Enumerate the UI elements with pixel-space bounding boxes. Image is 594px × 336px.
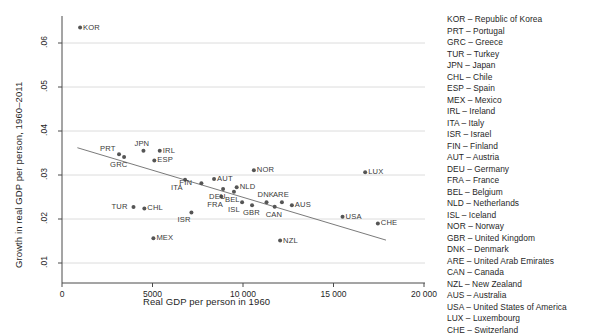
x-tick-label: 5000 (123, 289, 183, 299)
point-label-lux: LUX (368, 167, 383, 176)
data-point-grc (122, 155, 126, 159)
legend-entry: ARE – United Arab Emirates (447, 256, 592, 268)
data-point-chl (142, 206, 146, 210)
point-label-tur: TUR (111, 202, 127, 211)
point-label-fin: FIN (179, 178, 192, 187)
data-point-gbr (250, 203, 254, 207)
data-point-aut (212, 177, 216, 181)
point-label-chl: CHL (147, 203, 163, 212)
point-label-dnk: DNK (258, 190, 274, 199)
point-label-bel: BEL (225, 195, 240, 204)
point-label-nor: NOR (257, 165, 274, 174)
legend-entry: NZL – New Zealand (447, 279, 592, 291)
data-point-che (376, 221, 380, 225)
legend-entry: NLD – Netherlands (447, 198, 592, 210)
data-point-are (280, 200, 284, 204)
y-axis-title: Growth in real GDP per person, 1960–2011 (13, 82, 24, 268)
y-tick-label: .04 (39, 118, 49, 142)
legend-entry: MEX – Mexico (447, 95, 592, 107)
legend-entry: GRC – Greece (447, 37, 592, 49)
legend-entry: JPN – Japan (447, 60, 592, 72)
point-label-isr: ISR (177, 215, 190, 224)
x-tick-label: 20 000 (394, 289, 454, 299)
point-label-jpn: JPN (134, 139, 149, 148)
data-point-aus (290, 203, 294, 207)
data-point-deu (221, 187, 225, 191)
data-point-nzl (278, 239, 282, 243)
legend-entry: NOR – Norway (447, 221, 592, 233)
legend-entry: AUS – Australia (447, 290, 592, 302)
data-point-irl (158, 149, 162, 153)
point-label-che: CHE (381, 218, 397, 227)
point-label-aut: AUT (217, 174, 233, 183)
data-point-kor (78, 26, 82, 30)
legend-entry: ISL – Iceland (447, 210, 592, 222)
point-label-mex: MEX (156, 233, 173, 242)
y-tick-label: .01 (39, 250, 49, 274)
legend-entry: CHL – Chile (447, 72, 592, 84)
point-label-irl: IRL (163, 146, 175, 155)
legend-entry: CHE – Switzerland (447, 325, 592, 336)
point-label-usa: USA (346, 212, 362, 221)
legend-entry: USA – United States of America (447, 302, 592, 314)
point-label-grc: GRC (110, 160, 127, 169)
data-point-isr (189, 210, 193, 214)
data-point-bel (232, 190, 236, 194)
legend-entry: TUR – Turkey (447, 49, 592, 61)
x-tick-label: 15 000 (304, 289, 364, 299)
data-point-esp (152, 158, 156, 162)
point-label-kor: KOR (83, 23, 100, 32)
x-tick-label: 10 000 (213, 289, 273, 299)
point-label-can: CAN (266, 210, 282, 219)
point-label-gbr: GBR (243, 208, 260, 217)
x-tick-label: 0 (32, 289, 92, 299)
data-point-fin (199, 181, 203, 185)
legend-entry: IRL – Ireland (447, 106, 592, 118)
legend-entry: PRT – Portugal (447, 26, 592, 38)
legend-entry: CAN – Canada (447, 267, 592, 279)
country-code-legend: KOR – Republic of KoreaPRT – PortugalGRC… (447, 14, 592, 336)
data-point-can (273, 205, 277, 209)
data-point-tur (131, 205, 135, 209)
data-point-nld (235, 185, 239, 189)
legend-entry: AUT – Austria (447, 152, 592, 164)
point-label-are: ARE (273, 190, 289, 199)
y-tick-label: .05 (39, 74, 49, 98)
legend-entry: GBR – United Kingdom (447, 233, 592, 245)
data-point-lux (363, 170, 367, 174)
point-label-aus: AUS (295, 200, 311, 209)
data-point-isl (240, 200, 244, 204)
data-point-prt (117, 152, 121, 156)
y-tick-label: .02 (39, 206, 49, 230)
legend-entry: DEU – Germany (447, 164, 592, 176)
point-label-nld: NLD (240, 182, 256, 191)
legend-entry: ITA – Italy (447, 118, 592, 130)
point-label-isl: ISL (228, 205, 240, 214)
y-tick-label: .03 (39, 162, 49, 186)
legend-entry: ISR – Israel (447, 129, 592, 141)
point-label-prt: PRT (100, 144, 116, 153)
legend-entry: DNK – Denmark (447, 244, 592, 256)
legend-entry: BEL – Belgium (447, 187, 592, 199)
y-tick-label: .06 (39, 30, 49, 54)
data-point-mex (151, 236, 155, 240)
point-label-nzl: NZL (283, 236, 298, 245)
data-point-nor (252, 168, 256, 172)
point-label-esp: ESP (157, 155, 173, 164)
legend-entry: LUX – Luxembourg (447, 313, 592, 325)
legend-entry: FRA – France (447, 175, 592, 187)
data-point-jpn (141, 149, 145, 153)
point-label-fra: FRA (207, 200, 223, 209)
legend-entry: KOR – Republic of Korea (447, 14, 592, 26)
legend-entry: FIN – Finland (447, 141, 592, 153)
data-point-usa (341, 215, 345, 219)
legend-entry: ESP – Spain (447, 83, 592, 95)
data-point-dnk (265, 200, 269, 204)
